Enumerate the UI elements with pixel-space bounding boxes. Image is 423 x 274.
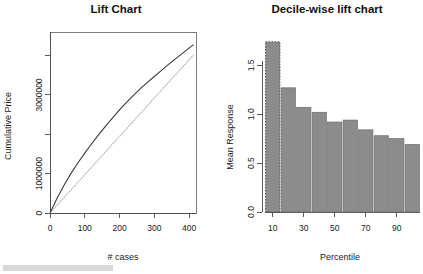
right-x-tick-label: 90 (392, 223, 402, 233)
right-x-axis-title: Percentile (320, 252, 360, 262)
decile-bar (297, 107, 311, 212)
decile-bar (405, 145, 419, 212)
decile-bar (266, 42, 280, 212)
left-x-tick-label: 0 (48, 223, 53, 233)
right-y-tick-label: 0.0 (246, 206, 256, 218)
right-panel-title: Decile-wise lift chart (271, 3, 382, 15)
left-x-tick-label: 300 (147, 223, 161, 233)
left-y-axis-title: Cumulative Price (3, 92, 13, 160)
decile-bar (312, 112, 326, 212)
decile-bar (328, 122, 342, 212)
lift-charts-figure: Lift Chart 010000003000000 0100200300400… (0, 0, 423, 274)
left-y-tick-label: 0 (34, 210, 44, 215)
decile-bar (281, 88, 295, 212)
decile-bar (374, 136, 388, 212)
left-x-tick-label: 100 (78, 223, 92, 233)
right-x-tick-label: 70 (361, 223, 371, 233)
left-y-tick-label: 1000000 (34, 157, 44, 190)
decile-bar (343, 120, 357, 212)
left-y-tick-label: 3000000 (34, 78, 44, 111)
right-x-tick-label: 30 (299, 223, 309, 233)
left-x-axis-title: # cases (107, 252, 139, 262)
left-x-tick-label: 200 (112, 223, 126, 233)
right-y-axis-title: Mean Response (225, 104, 235, 170)
decile-bar (359, 130, 373, 212)
decile-bar (390, 139, 404, 212)
right-y-tick-label: 1.0 (246, 108, 256, 120)
right-x-tick-label: 50 (330, 223, 340, 233)
right-x-tick-label: 10 (268, 223, 278, 233)
right-y-tick-label: 0.5 (246, 157, 256, 169)
left-panel-title: Lift Chart (90, 3, 141, 15)
watermark-strip (3, 265, 113, 271)
left-x-tick-label: 400 (182, 223, 196, 233)
right-y-tick-label: 1.5 (246, 59, 256, 71)
